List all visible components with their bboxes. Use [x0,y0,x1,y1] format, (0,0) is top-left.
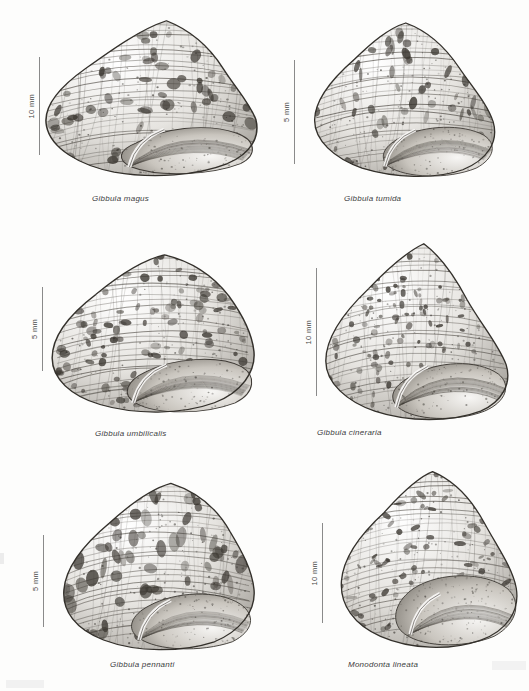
scale-bar-label-gibbula-pennanti: 5 mm [32,571,40,591]
scale-bar-gibbula-magus: 10 mm [28,57,40,155]
illustration-plate: 10 mmGibbula magus5 mmGibbula tumida5 mm… [0,0,529,691]
scan-artifact-bottom-right [492,661,526,670]
scan-artifact-bottom-left [6,680,44,688]
scale-bar-rule-gibbula-pennanti [43,535,44,627]
scan-artifact-left-edge [0,553,4,564]
shell-illustration-monodonta-lineata [334,468,520,653]
scale-bar-rule-gibbula-magus [39,57,40,155]
scale-bar-gibbula-umbilicalis: 5 mm [31,287,43,371]
caption-gibbula-tumida: Gibbula tumida [344,194,401,203]
scale-bar-monodonta-lineata: 10 mm [311,523,323,623]
scale-bar-rule-gibbula-umbilicalis [42,287,43,371]
scale-bar-gibbula-cineraria: 10 mm [305,268,317,396]
caption-gibbula-umbilicalis: Gibbula umbilicalis [95,429,166,438]
scale-bar-gibbula-pennanti: 5 mm [32,535,44,627]
caption-gibbula-magus: Gibbula magus [92,194,149,203]
caption-gibbula-cineraria: Gibbula cineraria [317,428,382,437]
scale-bar-rule-gibbula-cineraria [316,268,317,396]
shell-illustration-gibbula-umbilicalis [48,248,256,420]
scale-bar-label-gibbula-umbilicalis: 5 mm [31,319,39,339]
caption-monodonta-lineata: Monodonta lineata [348,660,418,669]
scale-bar-label-gibbula-magus: 10 mm [28,94,36,118]
scale-bar-label-gibbula-cineraria: 10 mm [305,320,313,344]
scale-bar-rule-monodonta-lineata [322,523,323,623]
shell-illustration-gibbula-tumida [307,18,497,183]
scale-bar-label-gibbula-tumida: 5 mm [283,102,291,122]
shell-illustration-gibbula-cineraria [316,240,512,426]
scale-bar-gibbula-tumida: 5 mm [283,60,295,164]
scale-bar-rule-gibbula-tumida [294,60,295,164]
caption-gibbula-pennanti: Gibbula pennanti [110,660,175,669]
shell-illustration-gibbula-magus [40,14,258,184]
shell-illustration-gibbula-pennanti [58,478,256,658]
scale-bar-label-monodonta-lineata: 10 mm [311,561,319,585]
